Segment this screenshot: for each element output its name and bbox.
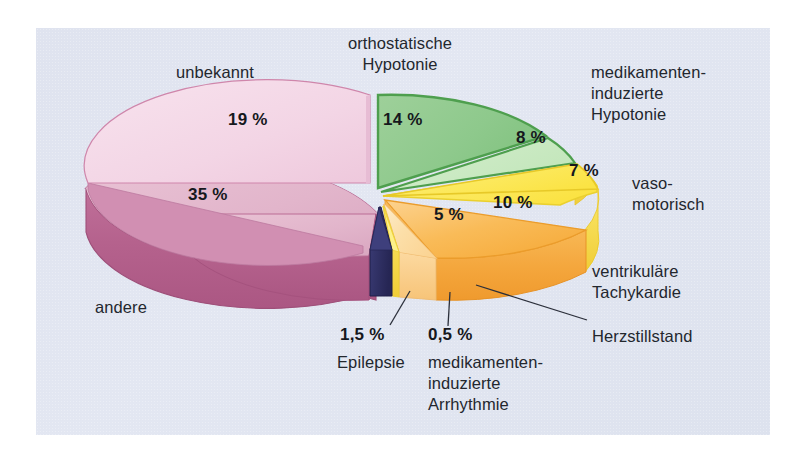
- value-orthostatische-hypotonie: 14 %: [383, 110, 423, 130]
- label-vasomotorisch-line2: motorisch: [632, 194, 792, 215]
- value-medikamenten-hypotonie: 8 %: [516, 128, 546, 148]
- value-medikamenten-arrhythmie: 0,5 %: [428, 325, 472, 345]
- label-medikamenten-arrhythmie-line2: induzierte: [428, 373, 618, 394]
- value-herzstillstand: 5 %: [434, 205, 464, 225]
- pie-chart-figure: unbekannt 19 % orthostatische Hypotonie …: [0, 0, 796, 463]
- label-medikamenten-hypotonie-line3: Hypotonie: [591, 104, 771, 125]
- value-ventrikulaere-tachykardie: 10 %: [493, 193, 533, 213]
- label-medikamenten-hypotonie-line1: medikamenten-: [591, 62, 771, 83]
- pie-rim-highlight: [585, 189, 599, 272]
- value-epilepsie: 1,5 %: [340, 325, 384, 345]
- label-orthostatische-hypotonie-line1: orthostatische: [300, 33, 500, 54]
- value-andere: 35 %: [188, 185, 228, 205]
- label-herzstillstand: Herzstillstand: [592, 326, 782, 347]
- label-ventrikulaere-tachykardie-line1: ventrikuläre: [592, 261, 782, 282]
- label-medikamenten-arrhythmie-line1: medikamenten-: [428, 352, 618, 373]
- label-orthostatische-hypotonie-line2: Hypotonie: [300, 54, 500, 75]
- label-andere: andere: [95, 297, 235, 318]
- label-medikamenten-hypotonie-line2: induzierte: [591, 83, 771, 104]
- label-vasomotorisch-line1: vaso-: [632, 173, 792, 194]
- value-unbekannt: 19 %: [228, 110, 268, 130]
- label-unbekannt: unbekannt: [130, 62, 300, 83]
- label-ventrikulaere-tachykardie-line2: Tachykardie: [592, 282, 782, 303]
- value-vasomotorisch: 7 %: [569, 161, 599, 181]
- label-medikamenten-arrhythmie-line3: Arrhythmie: [428, 394, 618, 415]
